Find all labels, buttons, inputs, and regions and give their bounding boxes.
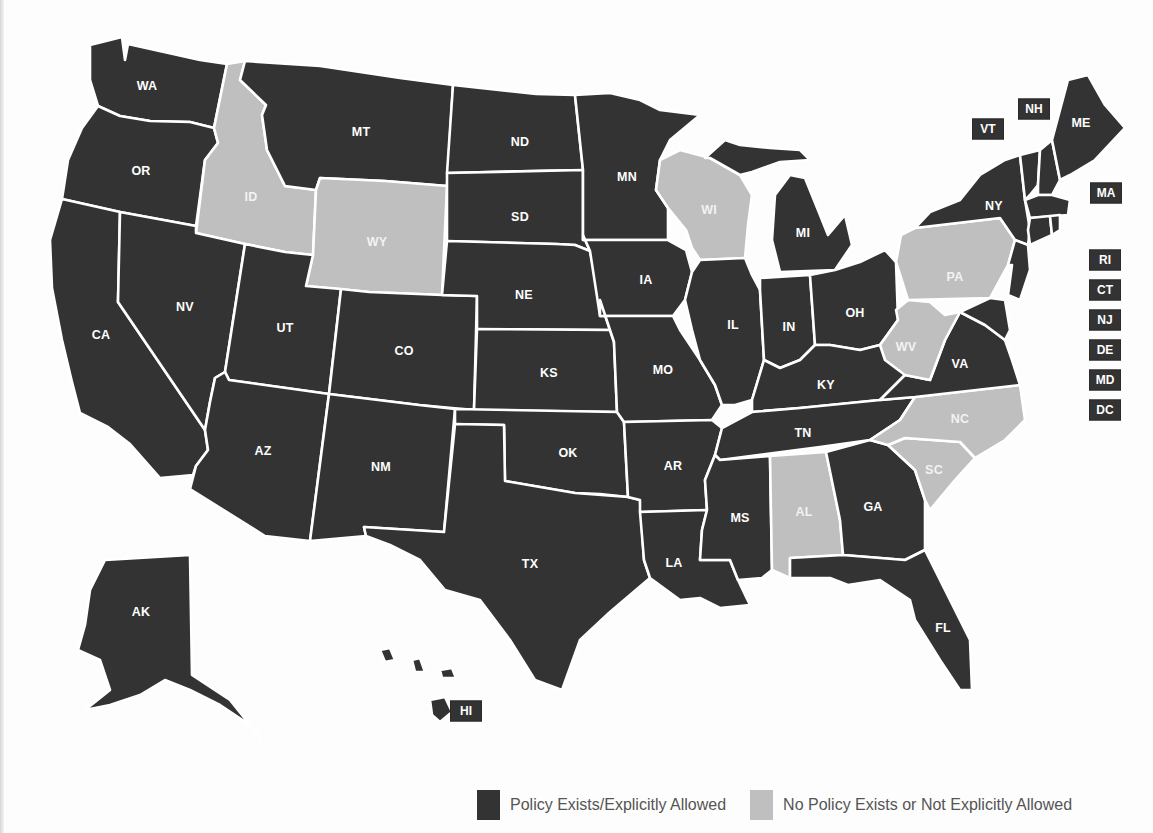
state-label-tx: TX bbox=[522, 557, 538, 571]
state-label-wi: WI bbox=[701, 203, 717, 217]
state-label-ok: OK bbox=[558, 446, 577, 460]
state-ak[interactable] bbox=[78, 555, 262, 740]
legend-item-no-policy: No Policy Exists or Not Explicitly Allow… bbox=[750, 790, 1072, 820]
state-label-sd: SD bbox=[511, 210, 529, 224]
state-ct[interactable] bbox=[1028, 216, 1052, 245]
legend-item-policy-exists: Policy Exists/Explicitly Allowed bbox=[477, 790, 726, 820]
state-label-wv: WV bbox=[896, 340, 917, 354]
state-label-or: OR bbox=[131, 164, 150, 178]
state-label-va: VA bbox=[952, 357, 969, 371]
state-callout-hi[interactable]: HI bbox=[450, 701, 482, 722]
state-label-tn: TN bbox=[794, 426, 811, 440]
state-ri[interactable] bbox=[1050, 215, 1060, 235]
state-label-id: ID bbox=[245, 190, 258, 204]
state-callout-nh[interactable]: NH bbox=[1018, 99, 1050, 120]
state-label-co: CO bbox=[394, 344, 413, 358]
state-label-fl: FL bbox=[935, 621, 951, 635]
state-label-in: IN bbox=[783, 320, 796, 334]
state-label-il: IL bbox=[727, 318, 739, 332]
state-fl[interactable] bbox=[790, 550, 972, 690]
state-ma[interactable] bbox=[1025, 195, 1070, 218]
state-label-nd: ND bbox=[511, 135, 529, 149]
state-label-ne: NE bbox=[515, 288, 533, 302]
state-label-al: AL bbox=[795, 505, 812, 519]
state-label-mi: MI bbox=[796, 226, 810, 240]
state-callout-vt[interactable]: VT bbox=[972, 119, 1004, 140]
state-label-mt: MT bbox=[352, 125, 370, 139]
state-label-ca: CA bbox=[92, 328, 110, 342]
state-callout-nj[interactable]: NJ bbox=[1089, 310, 1121, 331]
legend-label-policy-exists: Policy Exists/Explicitly Allowed bbox=[510, 796, 726, 814]
state-nd[interactable] bbox=[447, 85, 583, 173]
legend-swatch-no-policy bbox=[750, 790, 773, 820]
state-label-nm: NM bbox=[371, 460, 391, 474]
state-label-mn: MN bbox=[617, 170, 637, 184]
state-label-wa: WA bbox=[137, 79, 158, 93]
state-pa[interactable] bbox=[896, 218, 1015, 300]
state-callout-md[interactable]: MD bbox=[1089, 370, 1121, 391]
legend-label-no-policy: No Policy Exists or Not Explicitly Allow… bbox=[783, 796, 1072, 814]
state-callout-de[interactable]: DE bbox=[1089, 340, 1121, 361]
state-label-ks: KS bbox=[540, 366, 558, 380]
state-label-ga: GA bbox=[863, 500, 882, 514]
legend-swatch-policy-exists bbox=[477, 790, 500, 820]
state-callout-ct[interactable]: CT bbox=[1089, 280, 1121, 301]
state-label-nc: NC bbox=[951, 412, 969, 426]
state-label-az: AZ bbox=[254, 444, 271, 458]
state-label-ak: AK bbox=[132, 605, 150, 619]
state-callout-ri[interactable]: RI bbox=[1089, 250, 1121, 271]
state-label-ut: UT bbox=[276, 321, 293, 335]
state-callout-dc[interactable]: DC bbox=[1089, 400, 1121, 421]
state-label-me: ME bbox=[1071, 116, 1090, 130]
state-nj[interactable] bbox=[1008, 240, 1030, 300]
state-label-ms: MS bbox=[730, 511, 749, 525]
state-label-mo: MO bbox=[653, 363, 674, 377]
state-label-ny: NY bbox=[985, 199, 1003, 213]
state-callout-ma[interactable]: MA bbox=[1090, 183, 1122, 204]
state-label-la: LA bbox=[665, 556, 682, 570]
state-label-ky: KY bbox=[817, 378, 835, 392]
state-label-nv: NV bbox=[176, 300, 194, 314]
state-label-wy: WY bbox=[367, 235, 388, 249]
legend: Policy Exists/Explicitly Allowed No Poli… bbox=[477, 789, 1096, 821]
state-label-oh: OH bbox=[845, 306, 864, 320]
state-label-ia: IA bbox=[640, 273, 653, 287]
state-label-pa: PA bbox=[947, 270, 964, 284]
state-hi[interactable] bbox=[380, 648, 456, 722]
state-label-ar: AR bbox=[664, 459, 682, 473]
state-label-sc: SC bbox=[925, 463, 943, 477]
